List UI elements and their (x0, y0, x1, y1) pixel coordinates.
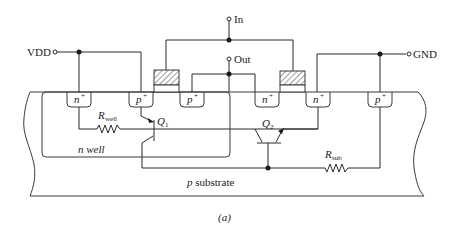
rwell-label: R (97, 109, 105, 121)
p1-label: p (135, 93, 142, 105)
pmos-gate-oxide (154, 85, 179, 92)
out-label: Out (234, 53, 251, 65)
gnd-label: GND (413, 48, 437, 60)
cmos-latchup-diagram: VDD In Out GND n + p + p + n + n + p + (0, 0, 457, 237)
gnd-terminal[interactable] (407, 52, 411, 56)
gnd-net (317, 52, 406, 93)
n1-sup: + (81, 92, 85, 100)
rwell-resistor (97, 125, 120, 133)
rsub-resistor (325, 164, 348, 172)
n3-label: n (313, 93, 319, 105)
q1-sub: 1 (165, 121, 169, 129)
out-terminal[interactable] (227, 57, 231, 61)
p2-sup: + (194, 92, 198, 100)
n1-label: n (74, 93, 80, 105)
n2-label: n (262, 93, 268, 105)
vdd-net (57, 50, 141, 93)
q1-label: Q (157, 115, 165, 127)
nmos-gate (280, 71, 305, 85)
rwell-sub: well (105, 115, 117, 123)
out-net (192, 61, 255, 92)
q2-sub: 2 (270, 123, 274, 131)
nwell-label: n well (78, 143, 105, 155)
in-label: In (234, 13, 244, 25)
figure-caption: (a) (218, 211, 231, 224)
vdd-label: VDD (27, 46, 51, 58)
substrate-label: p substrate (186, 176, 234, 188)
p3-label: p (374, 93, 381, 105)
rsub-sub: sub (332, 154, 342, 162)
p1-sup: + (143, 92, 147, 100)
rsub-branch (268, 107, 380, 172)
q2-label: Q (262, 117, 270, 129)
n3-sup: + (320, 92, 324, 100)
nmos-gate-oxide (280, 85, 305, 92)
p3-sup: + (382, 92, 386, 100)
p2-label: p (186, 93, 193, 105)
in-terminal[interactable] (227, 17, 231, 21)
pmos-gate (154, 70, 179, 85)
rsub-label: R (324, 148, 332, 160)
vdd-terminal[interactable] (53, 50, 57, 54)
n2-sup: + (269, 92, 273, 100)
